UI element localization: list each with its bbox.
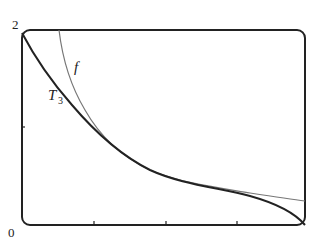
y-label-bottom: 0 xyxy=(8,225,15,240)
label-f: f xyxy=(74,59,80,75)
label-t3: T xyxy=(48,87,58,103)
label-t3-sub: 3 xyxy=(58,95,63,106)
y-label-top: 2 xyxy=(12,17,19,32)
series-f-line xyxy=(59,30,305,201)
chart-canvas: 2 0 f T 3 xyxy=(0,0,310,241)
